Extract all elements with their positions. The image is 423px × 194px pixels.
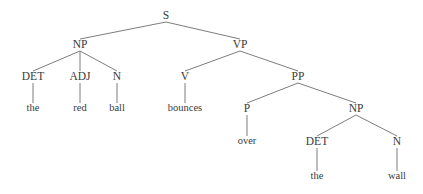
tree-node-layer: SNPVPDETADJNVPPtheredballbouncesPNPoverD… xyxy=(22,9,406,182)
tree-edge-vp-to-pp xyxy=(240,51,298,71)
tree-edge-s-to-vp xyxy=(166,22,240,39)
tree-edge-np1-to-n1 xyxy=(80,51,117,71)
tree-node-v1: V xyxy=(181,70,190,82)
tree-node-w_over: over xyxy=(238,135,257,146)
tree-edge-np1-to-det1 xyxy=(33,51,80,71)
tree-node-w_red: red xyxy=(73,102,87,113)
tree-node-s: S xyxy=(163,9,169,21)
tree-node-w_boun: bounces xyxy=(168,102,202,113)
tree-edge-np2-to-det2 xyxy=(317,115,356,136)
tree-edge-np2-to-n2 xyxy=(356,115,397,136)
tree-node-adj1: ADJ xyxy=(69,70,91,82)
tree-node-n1: N xyxy=(113,70,122,82)
parse-tree-figure: SNPVPDETADJNVPPtheredballbouncesPNPoverD… xyxy=(0,0,423,194)
tree-node-np2: NP xyxy=(349,102,364,114)
tree-edge-vp-to-v1 xyxy=(185,51,240,71)
tree-node-w_the1: the xyxy=(27,102,40,113)
tree-edge-pp-to-np2 xyxy=(298,83,356,103)
tree-node-vp: VP xyxy=(233,38,248,50)
tree-edge-pp-to-p1 xyxy=(247,83,298,103)
parse-tree-canvas: SNPVPDETADJNVPPtheredballbouncesPNPoverD… xyxy=(0,0,423,194)
tree-node-w_wall: wall xyxy=(388,170,406,181)
tree-node-det2: DET xyxy=(306,135,328,147)
tree-node-n2: N xyxy=(393,135,402,147)
tree-node-np1: NP xyxy=(73,38,88,50)
tree-node-pp: PP xyxy=(292,70,305,82)
tree-node-w_ball: ball xyxy=(109,102,125,113)
tree-edge-s-to-np1 xyxy=(80,22,166,39)
tree-node-w_the2: the xyxy=(311,170,324,181)
tree-node-p1: P xyxy=(244,102,250,114)
tree-node-det1: DET xyxy=(22,70,44,82)
tree-edge-layer xyxy=(33,22,397,171)
